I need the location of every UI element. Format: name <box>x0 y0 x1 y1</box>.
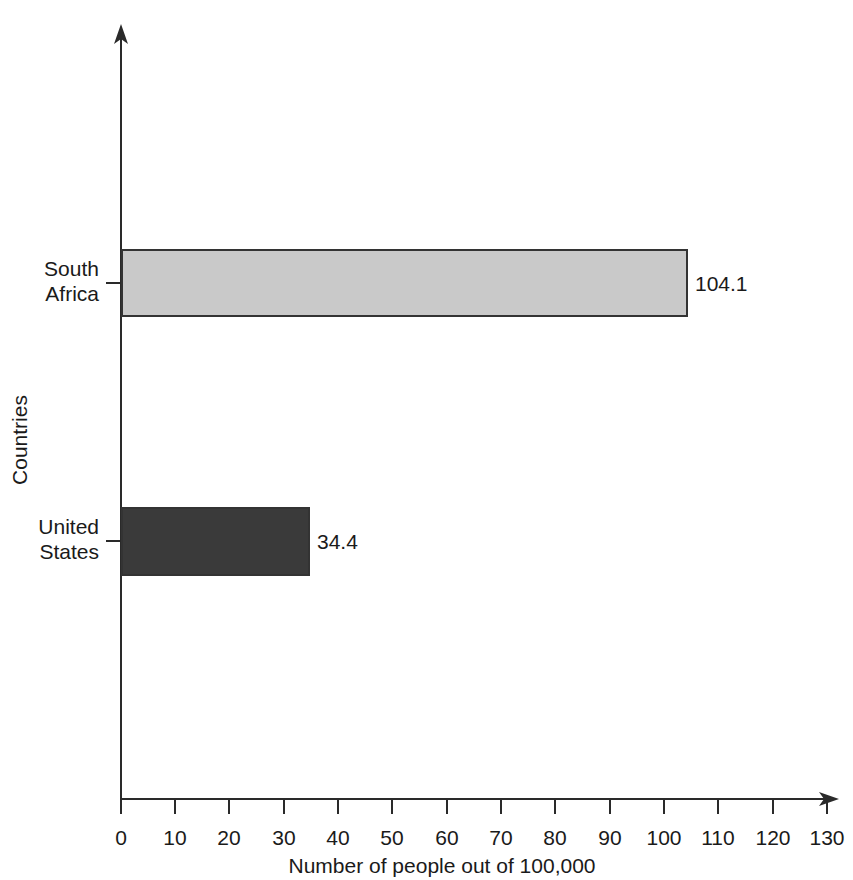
x-tick-label: 50 <box>380 826 403 849</box>
x-tick-label: 40 <box>326 826 349 849</box>
x-tick-label: 10 <box>163 826 186 849</box>
bar-united-states[interactable] <box>122 508 309 575</box>
x-tick-label: 110 <box>701 826 734 849</box>
x-tick-label: 130 <box>809 826 844 849</box>
x-tick-label: 60 <box>435 826 458 849</box>
chart-background <box>0 0 853 880</box>
x-axis-title: Number of people out of 100,000 <box>288 854 595 877</box>
x-tick-label: 30 <box>272 826 295 849</box>
category-label-united-states-line2: States <box>39 540 99 563</box>
x-tick-label: 120 <box>755 826 790 849</box>
x-tick-label: 90 <box>598 826 621 849</box>
bar-south-africa[interactable] <box>122 250 687 316</box>
bar-value-label-united-states: 34.4 <box>317 530 358 553</box>
x-tick-label: 80 <box>543 826 566 849</box>
category-label-south-africa-line2: Africa <box>45 282 99 305</box>
chart-canvas: 0 10 20 30 40 50 60 70 80 90 100 110 120… <box>0 0 853 880</box>
x-tick-label: 0 <box>115 826 127 849</box>
category-label-south-africa-line1: South <box>44 257 99 280</box>
category-label-united-states-line1: United <box>38 515 99 538</box>
x-tick-label: 20 <box>217 826 240 849</box>
bar-value-label-south-africa: 104.1 <box>695 272 748 295</box>
x-tick-label: 100 <box>646 826 681 849</box>
y-axis-title: Countries <box>8 395 31 485</box>
x-tick-label: 70 <box>489 826 512 849</box>
bar-chart: 0 10 20 30 40 50 60 70 80 90 100 110 120… <box>0 0 853 880</box>
